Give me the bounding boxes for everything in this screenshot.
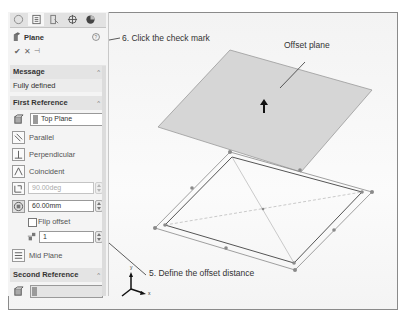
tab-configuration-manager[interactable] — [46, 13, 62, 26]
second-reference-selection[interactable] — [30, 285, 103, 298]
property-manager-panel: Plane ? ✔ ✕ ⊣ Message ^ Fully defined Fi… — [8, 12, 109, 296]
second-reference-header[interactable]: Second Reference ^ — [10, 268, 106, 282]
parallel-icon — [13, 132, 24, 143]
coincident-button[interactable] — [12, 165, 25, 178]
tab-dimxpert[interactable] — [64, 13, 80, 26]
tab-feature-manager[interactable] — [10, 13, 26, 26]
panel-title: Plane — [24, 33, 44, 42]
perpendicular-button[interactable] — [12, 148, 25, 161]
parallel-label: Parallel — [29, 131, 54, 144]
flip-offset-label: Flip offset — [38, 215, 70, 228]
help-icon[interactable]: ? — [92, 33, 100, 41]
offset-distance-input[interactable]: 60.00mm — [28, 200, 94, 212]
panel-scrollbar[interactable] — [102, 66, 106, 296]
callout-offset-distance: 5. Define the offset distance — [149, 268, 254, 278]
feature-manager-icon — [13, 14, 24, 25]
tab-property-manager[interactable] — [28, 13, 44, 26]
triad-x-label: x — [148, 290, 151, 296]
triad-y-label: y — [130, 264, 133, 270]
angle-button[interactable] — [12, 182, 25, 195]
pushpin-button[interactable]: ⊣ — [34, 47, 40, 55]
property-manager-icon — [31, 14, 42, 25]
manager-tabs — [10, 13, 106, 28]
coordinate-triad — [122, 272, 146, 296]
mid-plane-icon — [13, 250, 24, 261]
message-text: Fully defined — [10, 79, 106, 92]
parallel-button[interactable] — [12, 131, 25, 144]
tab-display-manager[interactable] — [82, 13, 98, 26]
callout-offset-plane: Offset plane — [284, 40, 330, 50]
reference-selection-icon — [12, 285, 25, 298]
coincident-label: Coincident — [29, 165, 64, 178]
collapse-caret-icon: ^ — [97, 268, 100, 282]
svg-text:?: ? — [95, 35, 98, 40]
first-reference-header[interactable]: First Reference ^ — [10, 96, 106, 110]
first-reference-selection[interactable]: Top Plane — [30, 113, 103, 126]
flip-offset-checkbox[interactable] — [28, 218, 37, 227]
plane-icon — [13, 32, 21, 42]
message-section-header[interactable]: Message ^ — [10, 65, 106, 79]
first-reference-title: First Reference — [13, 98, 68, 107]
perpendicular-label: Perpendicular — [29, 148, 75, 161]
display-manager-icon — [85, 14, 96, 25]
second-reference-title: Second Reference — [13, 270, 78, 279]
collapse-caret-icon: ^ — [97, 96, 100, 110]
panel-title-row: Plane ? — [10, 31, 106, 44]
cancel-button[interactable]: ✕ — [24, 47, 31, 56]
angle-input[interactable]: 90.00deg — [28, 182, 94, 194]
offset-distance-button[interactable] — [12, 200, 25, 213]
ok-button[interactable]: ✔ — [14, 47, 21, 56]
perpendicular-icon — [13, 149, 24, 160]
coincident-icon — [13, 166, 24, 177]
mid-plane-label: Mid Plane — [29, 249, 62, 262]
instances-icon — [27, 232, 37, 242]
angle-icon — [13, 183, 24, 194]
configuration-manager-icon — [49, 14, 60, 25]
message-header: Message — [13, 67, 45, 76]
dimxpert-icon — [67, 14, 78, 25]
mid-plane-button[interactable] — [12, 249, 25, 262]
action-buttons: ✔ ✕ ⊣ — [10, 47, 106, 59]
offset-distance-icon — [13, 201, 24, 212]
callout-check-mark: 6. Click the check mark — [122, 33, 210, 43]
collapse-caret-icon: ^ — [97, 65, 100, 79]
instances-input[interactable]: 1 — [39, 231, 94, 243]
reference-selection-icon — [12, 113, 25, 126]
